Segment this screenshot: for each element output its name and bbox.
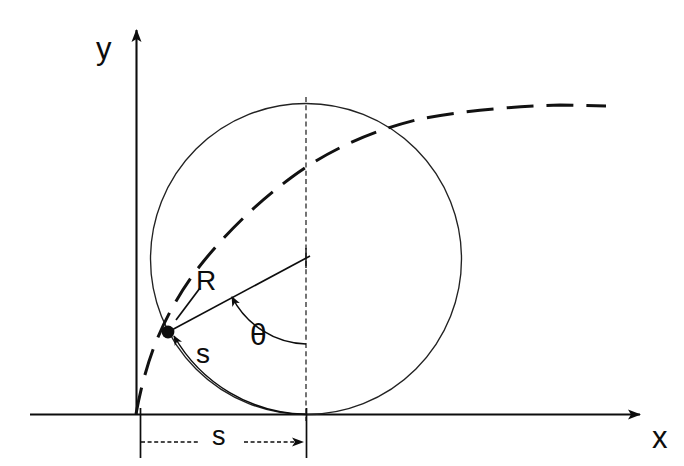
cycloid-diagram: y x R s θ s: [0, 0, 684, 466]
y-axis-label: y: [96, 33, 112, 64]
x-axis-label: x: [652, 422, 668, 453]
radius-label: R: [196, 267, 216, 295]
displacement-label: s: [212, 423, 226, 450]
tracing-point-marker: [162, 326, 175, 339]
angle-theta-label: θ: [250, 320, 267, 350]
radius-line: [168, 256, 310, 332]
arc-length-s-curve: [174, 336, 306, 414]
arc-length-label: s: [196, 340, 210, 368]
diagram-canvas: [0, 0, 684, 466]
angle-theta-arc: [232, 297, 306, 344]
